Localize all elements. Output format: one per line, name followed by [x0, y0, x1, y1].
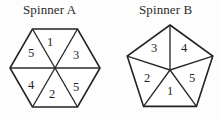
- spinner-b-diagram: 34512: [0, 0, 222, 119]
- sector-number-left: 2: [144, 71, 150, 85]
- sector-number-upper-right: 4: [181, 41, 188, 55]
- spinner-figure: Spinner A Spinner B 135245 34512: [0, 0, 222, 119]
- sector-number-upper-left: 3: [151, 41, 157, 55]
- sector-number-bottom: 1: [167, 84, 173, 98]
- sector-number-right: 5: [189, 71, 195, 85]
